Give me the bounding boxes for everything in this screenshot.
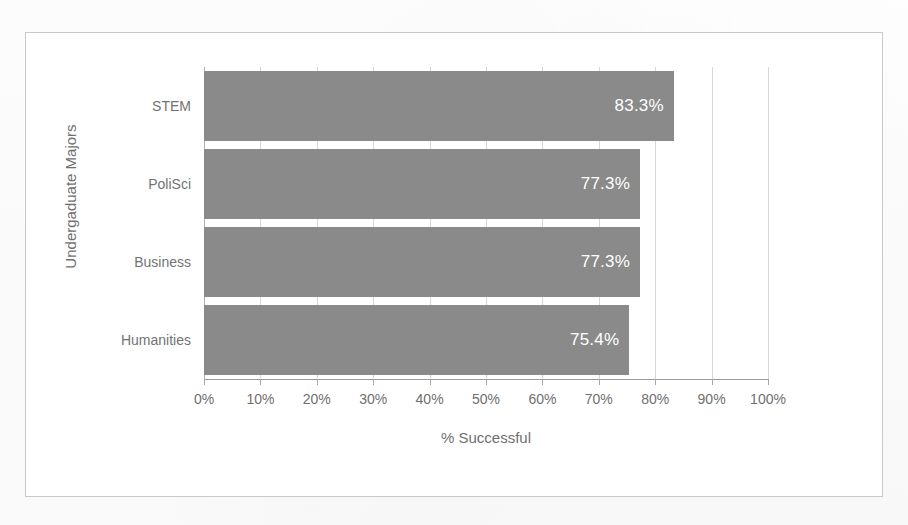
x-tick-mark-30%: [373, 379, 374, 385]
x-tick-label: 30%: [359, 391, 387, 407]
bar-row: 77.3%: [204, 149, 768, 219]
x-tick-label: 20%: [303, 391, 331, 407]
plot-area: 83.3%77.3%77.3%75.4%: [204, 67, 768, 379]
x-tick-label: 80%: [641, 391, 669, 407]
y-axis-tick-labels: STEMPoliSciBusinessHumanities: [74, 67, 191, 379]
chart-frame: Undergaduate Majors STEMPoliSciBusinessH…: [25, 32, 883, 497]
x-tick-mark-100%: [768, 379, 769, 385]
x-axis-title: % Successful: [204, 429, 768, 446]
bar-polisci[interactable]: 77.3%: [204, 149, 640, 219]
category-label-business: Business: [71, 254, 191, 270]
bar-row: 83.3%: [204, 71, 768, 141]
x-tick-label: 50%: [472, 391, 500, 407]
gridline-100%: [768, 67, 769, 379]
x-tick-label: 100%: [750, 391, 786, 407]
category-label-polisci: PoliSci: [71, 176, 191, 192]
x-tick-label: 60%: [528, 391, 556, 407]
bar-row: 77.3%: [204, 227, 768, 297]
bar-value-label: 75.4%: [570, 330, 619, 350]
bar-value-label: 77.3%: [581, 174, 630, 194]
bar-value-label: 83.3%: [615, 96, 664, 116]
bar-value-label: 77.3%: [581, 252, 630, 272]
x-tick-mark-80%: [655, 379, 656, 385]
x-tick-label: 40%: [416, 391, 444, 407]
category-label-stem: STEM: [71, 98, 191, 114]
x-tick-mark-70%: [599, 379, 600, 385]
x-tick-mark-20%: [317, 379, 318, 385]
x-tick-mark-0%: [204, 379, 205, 385]
bar-humanities[interactable]: 75.4%: [204, 305, 629, 375]
x-tick-label: 70%: [585, 391, 613, 407]
bar-stem[interactable]: 83.3%: [204, 71, 674, 141]
bar-row: 75.4%: [204, 305, 768, 375]
category-label-humanities: Humanities: [71, 332, 191, 348]
x-tick-label: 0%: [194, 391, 214, 407]
x-tick-label: 90%: [698, 391, 726, 407]
x-tick-mark-50%: [486, 379, 487, 385]
x-tick-mark-60%: [542, 379, 543, 385]
bar-business[interactable]: 77.3%: [204, 227, 640, 297]
x-tick-mark-90%: [712, 379, 713, 385]
x-tick-mark-10%: [260, 379, 261, 385]
x-tick-label: 10%: [246, 391, 274, 407]
x-tick-mark-40%: [430, 379, 431, 385]
